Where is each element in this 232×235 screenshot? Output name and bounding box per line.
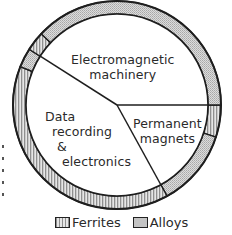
legend-item-alloys: Alloys bbox=[133, 215, 189, 230]
legend: Ferrites Alloys bbox=[55, 215, 200, 230]
ferrites-swatch-icon bbox=[55, 217, 70, 228]
legend-item-ferrites: Ferrites bbox=[55, 215, 121, 230]
label-line: Electromagnetic bbox=[71, 52, 174, 67]
alloys-swatch-icon bbox=[133, 217, 148, 228]
legend-label: Alloys bbox=[150, 215, 189, 230]
legend-label: Ferrites bbox=[72, 215, 121, 230]
label-line: Permanent bbox=[133, 116, 202, 131]
label-line: recording bbox=[45, 124, 131, 139]
label-line: magnets bbox=[133, 131, 202, 146]
label-line: Data bbox=[45, 109, 131, 124]
label-line: & bbox=[45, 139, 131, 154]
label-line: electronics bbox=[45, 154, 131, 169]
margin-ticks bbox=[2, 145, 4, 203]
label-data-recording: Data recording & electronics bbox=[45, 109, 131, 169]
label-electromagnetic-machinery: Electromagnetic machinery bbox=[71, 52, 174, 82]
label-line: machinery bbox=[71, 67, 174, 82]
label-permanent-magnets: Permanent magnets bbox=[133, 116, 202, 146]
